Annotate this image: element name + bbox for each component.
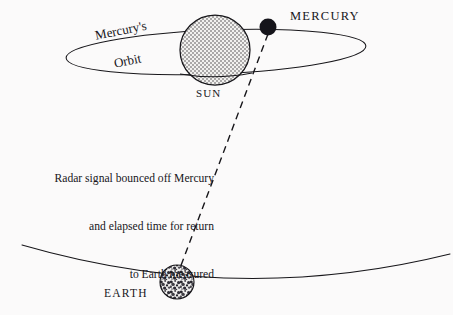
label-mercury: MERCURY xyxy=(290,9,360,24)
caption-line-2: and elapsed time for return xyxy=(38,219,214,235)
caption-line-3: to Earth measured xyxy=(38,267,214,283)
caption-line-1: Radar signal bounced off Mercury xyxy=(38,171,214,187)
mercury-body xyxy=(260,19,277,36)
radar-ranging-diagram: MERCURY SUN EARTH Mercury's Orbit Radar … xyxy=(0,0,453,315)
label-sun: SUN xyxy=(196,87,221,100)
caption-radar-signal: Radar signal bounced off Mercury and ela… xyxy=(38,139,214,315)
label-mercury-orbit-line-2: Orbit xyxy=(87,48,154,76)
label-mercury-orbit-line-1: Mercury's xyxy=(94,18,148,43)
sun-body xyxy=(180,15,250,85)
